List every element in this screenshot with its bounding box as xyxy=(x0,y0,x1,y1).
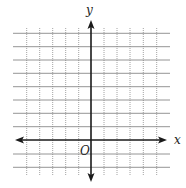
y-axis-label: y xyxy=(85,3,93,17)
origin-label: O xyxy=(80,144,90,158)
axes xyxy=(15,20,167,182)
coordinate-plane: y x O xyxy=(0,0,186,188)
x-axis-label: x xyxy=(174,133,181,147)
